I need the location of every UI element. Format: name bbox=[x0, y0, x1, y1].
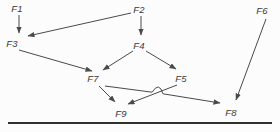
edge-F7-F8 bbox=[105, 86, 220, 103]
node-label-F5: F5 bbox=[175, 73, 187, 84]
node-label-F6: F6 bbox=[256, 5, 268, 16]
node-label-F3: F3 bbox=[6, 38, 18, 49]
node-label-F8: F8 bbox=[225, 107, 237, 118]
dependency-diagram: F1F2F3F4F5F6F7F8F9 bbox=[0, 0, 280, 132]
node-label-F4: F4 bbox=[133, 40, 145, 51]
edge-F6-F8 bbox=[236, 19, 266, 100]
node-label-F9: F9 bbox=[115, 108, 127, 119]
edge-F3-F7 bbox=[19, 50, 92, 71]
edge-F2-F3 bbox=[28, 13, 131, 36]
node-label-F2: F2 bbox=[133, 4, 145, 15]
edge-F7-F9 bbox=[99, 86, 115, 102]
figure-canvas: F1F2F3F4F5F6F7F8F9 bbox=[0, 0, 280, 132]
node-label-F1: F1 bbox=[11, 3, 23, 14]
edge-F4-F7 bbox=[103, 51, 133, 70]
node-label-F7: F7 bbox=[87, 73, 99, 84]
edge-F4-F5 bbox=[146, 51, 176, 69]
